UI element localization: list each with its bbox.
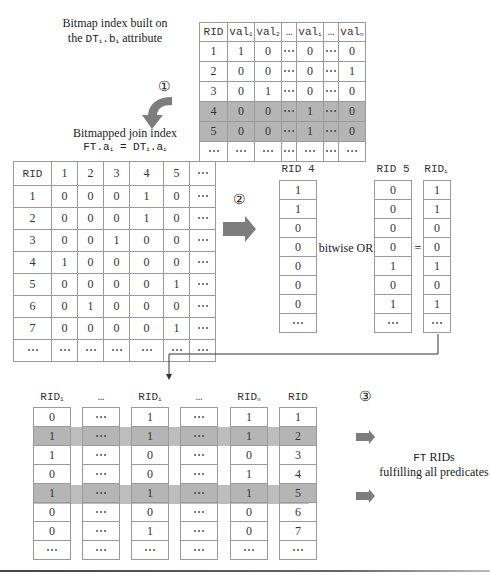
ellipsis-column-2: ⋯ ⋯ ⋯ ⋯ ⋯ ⋯ ⋯ ⋯: [180, 407, 218, 560]
ridn-header: RIDn: [230, 391, 268, 403]
rid-result-column: 1 2 3 4 5 6 7 ⋯: [279, 407, 317, 560]
rid1-bitmap-column: 0 1 1 0 1 0 0 ⋯: [33, 407, 71, 560]
ridi-header-step3: RIDi: [131, 391, 169, 403]
ellipsis-column-1: ⋯ ⋯ ⋯ ⋯ ⋯ ⋯ ⋯ ⋯: [82, 407, 120, 560]
result-arrow-icon-row5: [356, 489, 376, 503]
ridn-bitmap-column: 1 1 0 1 1 0 0 ⋯: [230, 407, 268, 560]
result-arrow-icon-row2: [356, 430, 376, 444]
step3-marker: ③: [359, 388, 372, 405]
bottom-divider: [0, 570, 490, 572]
result-caption: FT RIDs fulfilling all predicates: [378, 450, 490, 480]
rid1-header: RID1: [33, 391, 71, 403]
rid-result-header: RID: [279, 391, 317, 403]
ellipsis-header-1: …: [82, 391, 120, 403]
ridi-bitmap-column-step3: 1 1 0 0 1 0 1 ⋯: [131, 407, 169, 560]
ellipsis-header-2: …: [180, 391, 218, 403]
